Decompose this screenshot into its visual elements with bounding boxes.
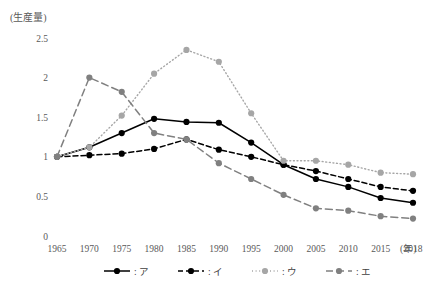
data-point <box>216 120 222 126</box>
legend-marker <box>188 268 194 274</box>
x-tick-label: 2000 <box>274 244 293 254</box>
data-point <box>86 75 92 81</box>
data-point <box>378 195 384 201</box>
data-point <box>151 130 157 136</box>
data-point <box>280 158 286 164</box>
y-axis-caption: (生産量) <box>10 11 47 24</box>
data-point <box>313 168 319 174</box>
data-point <box>183 47 189 53</box>
y-axis-caption-text: (生産量) <box>10 11 47 24</box>
y-tick-label: 0 <box>43 232 48 242</box>
data-point <box>86 144 92 150</box>
data-point <box>183 136 189 142</box>
x-tick-label: 2010 <box>339 244 358 254</box>
y-tick-label: 2 <box>43 73 48 83</box>
data-point <box>151 116 157 122</box>
legend-label: : ア <box>134 267 149 277</box>
data-point <box>183 119 189 125</box>
data-point <box>216 59 222 65</box>
x-tick-label: 1985 <box>177 244 196 254</box>
data-point <box>119 151 125 157</box>
data-point <box>345 162 351 168</box>
data-point <box>248 139 254 145</box>
legend-label: : エ <box>356 267 371 277</box>
x-tick-label: 1965 <box>48 244 67 254</box>
data-point <box>345 176 351 182</box>
x-tick-label: 1990 <box>209 244 228 254</box>
data-point <box>119 130 125 136</box>
data-point <box>151 71 157 77</box>
x-tick-label: 1970 <box>80 244 99 254</box>
y-tick-label: 1 <box>43 152 48 162</box>
data-point <box>54 154 60 160</box>
data-point <box>86 152 92 158</box>
data-point <box>248 176 254 182</box>
x-tick-label: 2015 <box>371 244 390 254</box>
data-point <box>410 171 416 177</box>
data-point <box>280 192 286 198</box>
y-tick-label: 0.5 <box>36 192 48 202</box>
data-point <box>313 205 319 211</box>
y-tick-label: 1.5 <box>36 113 48 123</box>
data-point <box>410 188 416 194</box>
data-point <box>378 184 384 190</box>
production-line-chart: (生産量) 00.511.522.5 196519701975198019851… <box>0 0 428 292</box>
data-point <box>345 184 351 190</box>
legend-marker <box>336 268 342 274</box>
x-tick-label: 1995 <box>242 244 261 254</box>
data-point <box>410 215 416 221</box>
data-point <box>345 208 351 214</box>
x-tick-label: 1980 <box>145 244 164 254</box>
data-point <box>410 200 416 206</box>
data-point <box>119 89 125 95</box>
x-axis-caption: (年) <box>400 243 416 255</box>
data-point <box>313 158 319 164</box>
x-axis-caption-text: (年) <box>400 243 416 255</box>
legend-marker <box>262 268 268 274</box>
data-point <box>151 146 157 152</box>
data-point <box>119 113 125 119</box>
data-point <box>216 147 222 153</box>
legend-label: : イ <box>208 267 223 277</box>
legend-marker <box>114 268 120 274</box>
chart-container: (生産量) 00.511.522.5 196519701975198019851… <box>0 0 428 292</box>
data-point <box>216 160 222 166</box>
x-tick-label: 2005 <box>306 244 325 254</box>
data-point <box>313 176 319 182</box>
data-point <box>248 110 254 116</box>
y-tick-label: 2.5 <box>36 34 48 44</box>
data-point <box>248 154 254 160</box>
data-point <box>378 213 384 219</box>
data-point <box>378 170 384 176</box>
legend-label: : ウ <box>282 267 297 277</box>
x-tick-label: 1975 <box>112 244 131 254</box>
